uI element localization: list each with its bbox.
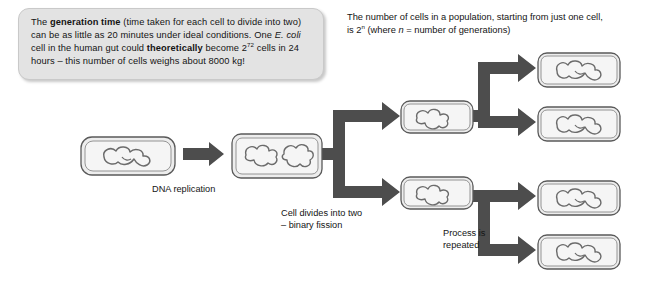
callout-line1-pre: The xyxy=(31,17,50,27)
caption-cell-divides: Cell divides into two – binary fission xyxy=(281,208,362,232)
arrow-fork-bottom-gen2-icon xyxy=(468,182,536,264)
bacterial-cell-icon xyxy=(398,173,476,213)
population-formula-note: The number of cells in a population, sta… xyxy=(347,11,647,37)
callout-line3-mid: become 2 xyxy=(203,43,247,53)
callout-exponent-72: 72 xyxy=(247,41,254,48)
note-line1: The number of cells in a population, sta… xyxy=(347,12,603,22)
caption-process-repeated: Process is repeated xyxy=(443,228,485,252)
note-line2-post: = number of generations) xyxy=(404,25,511,35)
callout-line1-post: (time taken for each cell to divide into… xyxy=(121,17,301,27)
arrow-fork-top-gen2-icon xyxy=(468,54,536,136)
bacterial-cell-icon xyxy=(535,49,623,91)
arrow-dna-replication-icon xyxy=(183,142,224,166)
callout-term-theoretically: theoretically xyxy=(147,43,203,53)
note-line2-pre: is 2 xyxy=(347,25,361,35)
callout-line3-pre: cell in the human gut could xyxy=(31,43,147,53)
bacterial-cell-icon xyxy=(78,133,178,179)
bacterial-cell-icon xyxy=(535,103,623,145)
generation-time-callout: The generation time (time taken for each… xyxy=(18,8,324,80)
parent-cell xyxy=(78,133,178,179)
arrow-fork-generation1-icon xyxy=(333,102,400,206)
daughter-cell-bottom xyxy=(398,173,476,213)
note-line2-mid: (where xyxy=(365,25,399,35)
callout-species-name: E. coli xyxy=(275,30,301,40)
granddaughter-cell-4 xyxy=(535,231,623,273)
callout-text: The generation time (time taken for each… xyxy=(31,16,312,68)
callout-line3-post: cells in xyxy=(254,43,286,53)
bacterial-cell-icon xyxy=(398,97,476,137)
callout-line2-pre: can be as little as 20 minutes under ide… xyxy=(31,30,275,40)
callout-term-generation-time: generation time xyxy=(50,17,121,27)
bacterial-cell-icon xyxy=(535,177,623,219)
granddaughter-cell-2 xyxy=(535,103,623,145)
diagram-canvas: The generation time (time taken for each… xyxy=(0,0,651,282)
daughter-cell-top xyxy=(398,97,476,137)
bacterial-cell-icon xyxy=(535,231,623,273)
granddaughter-cell-3 xyxy=(535,177,623,219)
bacterial-cell-replicated-icon xyxy=(229,129,325,183)
granddaughter-cell-1 xyxy=(535,49,623,91)
replicated-cell xyxy=(229,129,325,183)
caption-dna-replication: DNA replication xyxy=(152,184,215,196)
